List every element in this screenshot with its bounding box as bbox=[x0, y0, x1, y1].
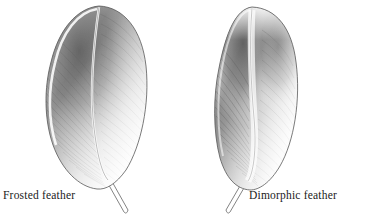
frosted-feather-label: Frosted feather bbox=[3, 189, 75, 201]
frosted-feather-highlight-wash bbox=[40, 0, 155, 195]
feather-illustration bbox=[0, 0, 369, 221]
dimorphic-feather-specimen bbox=[210, 0, 302, 213]
dimorphic-feather-label: Dimorphic feather bbox=[249, 189, 337, 201]
frosted-feather-specimen bbox=[40, 0, 155, 213]
